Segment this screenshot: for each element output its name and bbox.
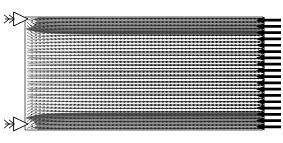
vector-field-canvas — [0, 0, 283, 143]
vector-field-figure — [0, 0, 283, 143]
